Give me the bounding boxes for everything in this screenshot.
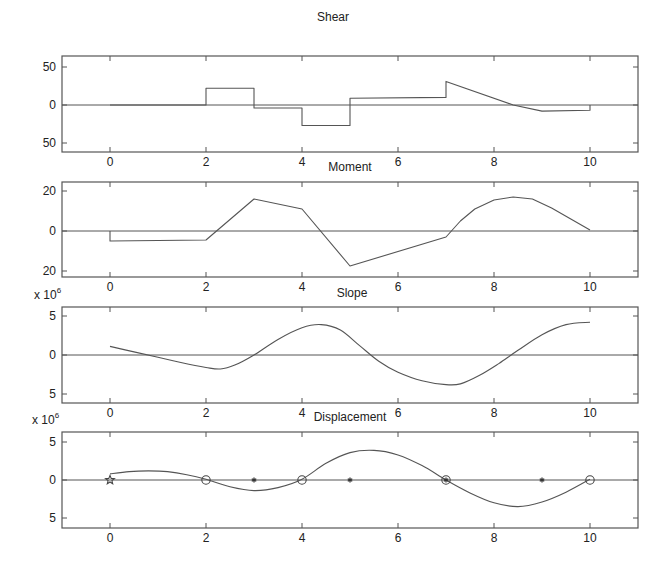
moment-xtick-label: 10 [583,280,597,294]
displacement-xtick-label: 0 [107,531,114,545]
shear-curve [110,81,590,125]
shear-xtick-label: 10 [583,155,597,169]
shear-xtick-label: 4 [299,155,306,169]
slope-xtick-label: 10 [583,406,597,420]
shear-ytick-label: 50 [43,136,57,150]
shear-xtick-label: 2 [203,155,210,169]
slope-title: Slope [337,286,368,300]
slope-xtick-label: 8 [491,406,498,420]
shear-panel: Shear 024681050050 [43,10,638,169]
slope-xtick-label: 6 [395,406,402,420]
shear-xtick-label: 0 [107,155,114,169]
slope-xtick-label: 2 [203,406,210,420]
moment-xtick-label: 2 [203,280,210,294]
displacement-ytick-label: 5 [49,511,56,525]
displacement-xtick-label: 8 [491,531,498,545]
slope-xtick-label: 0 [107,406,114,420]
slope-xtick-label: 4 [299,406,306,420]
moment-xtick-label: 4 [299,280,306,294]
moment-ytick-label: 0 [49,224,56,238]
beam-analysis-figure: Shear 024681050050 Moment 024681020020 S… [0,0,672,578]
shear-ytick-label: 50 [43,60,57,74]
moment-title: Moment [328,160,372,174]
displacement-panel: Displacement 0246810505x 106 [32,410,638,545]
displacement-exponent-label: x 106 [32,411,60,427]
slope-panel: Slope 0246810505x 106 [34,286,638,420]
shear-title: Shear [317,10,349,24]
moment-xtick-label: 0 [107,280,114,294]
slope-curve [110,322,590,385]
moment-xtick-label: 6 [395,280,402,294]
displacement-xtick-label: 4 [299,531,306,545]
slope-ytick-label: 5 [49,309,56,323]
moment-axes-frame [62,182,638,277]
moment-ytick-label: 20 [43,264,57,278]
shear-ytick-label: 0 [49,98,56,112]
moment-xtick-label: 8 [491,280,498,294]
displacement-ytick-label: 5 [49,435,56,449]
slope-ytick-label: 5 [49,387,56,401]
shear-xtick-label: 8 [491,155,498,169]
moment-ytick-label: 20 [43,184,57,198]
slope-exponent-label: x 106 [34,286,62,302]
displacement-xtick-label: 2 [203,531,210,545]
displacement-title: Displacement [314,410,387,424]
shear-xtick-label: 6 [395,155,402,169]
displacement-ytick-label: 0 [49,473,56,487]
moment-panel: Moment 024681020020 [43,160,638,294]
displacement-xtick-label: 10 [583,531,597,545]
displacement-xtick-label: 6 [395,531,402,545]
slope-ytick-label: 0 [49,348,56,362]
